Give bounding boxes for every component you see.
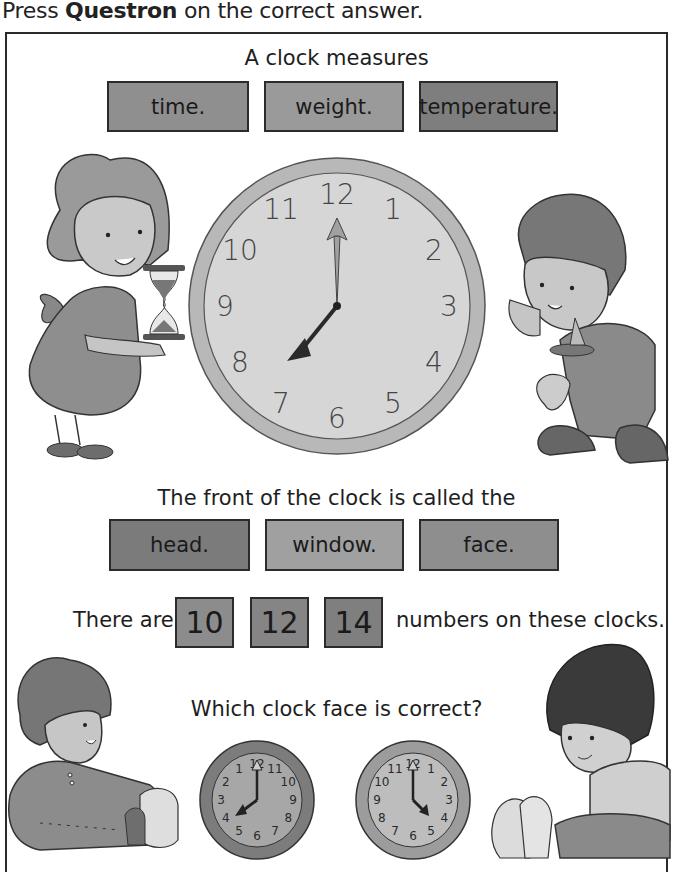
answer-label: 10 xyxy=(185,605,223,640)
answer-face-button[interactable]: face. xyxy=(419,519,559,571)
clock-numeral: 4 xyxy=(222,811,230,825)
clock-numeral: 6 xyxy=(409,829,417,843)
clock-numeral: 5 xyxy=(427,824,435,838)
instruction-prefix: Press xyxy=(2,0,65,23)
question-3-prompt-after: numbers on these clocks. xyxy=(396,608,665,632)
clock-numeral: 5 xyxy=(384,387,402,420)
answer-label: window. xyxy=(292,533,376,557)
clock-numeral: 11 xyxy=(263,193,299,226)
clock-numeral: 12 xyxy=(319,178,355,211)
girl-with-hourglass-illustration xyxy=(0,140,200,460)
clock-numeral: 1 xyxy=(384,193,402,226)
instruction-text: Press Questron on the correct answer. xyxy=(2,0,423,23)
clock-numeral: 2 xyxy=(440,775,448,789)
answer-window-button[interactable]: window. xyxy=(265,519,404,571)
clock-numeral: 10 xyxy=(374,775,389,789)
big-clock-illustration: 121234567891011 xyxy=(187,156,487,456)
clock-numeral: 8 xyxy=(231,346,249,379)
instruction-suffix: on the correct answer. xyxy=(177,0,423,23)
answer-14-button[interactable]: 14 xyxy=(324,597,383,648)
answer-12-button[interactable]: 12 xyxy=(250,597,309,648)
instruction-bold: Questron xyxy=(65,0,177,23)
boy-with-watch-illustration xyxy=(490,170,673,490)
clock-numeral: 2 xyxy=(425,234,443,267)
answer-label: temperature. xyxy=(419,95,558,119)
clock-numeral: 3 xyxy=(445,793,453,807)
clock-numeral: 3 xyxy=(440,290,458,323)
answer-label: time. xyxy=(151,95,205,119)
clock-numeral: 1 xyxy=(235,762,243,776)
answer-label: 14 xyxy=(334,605,372,640)
clock-numeral: 9 xyxy=(373,793,381,807)
clock-numeral: 6 xyxy=(328,402,346,435)
clock-numeral: 3 xyxy=(217,793,225,807)
answer-head-button[interactable]: head. xyxy=(109,519,250,571)
clock-numeral: 7 xyxy=(271,824,279,838)
clock-numeral: 1 xyxy=(427,762,435,776)
answer-10-button[interactable]: 10 xyxy=(175,597,234,648)
clock-numeral: 4 xyxy=(440,811,448,825)
sitting-boy-illustration xyxy=(480,640,673,858)
answer-label: head. xyxy=(150,533,209,557)
clock-numeral: 11 xyxy=(387,762,402,776)
clock-numeral: 4 xyxy=(425,346,443,379)
clock-numeral: 8 xyxy=(378,811,386,825)
clock-numeral: 9 xyxy=(289,793,297,807)
question-3-prompt-before: There are xyxy=(73,608,174,632)
sitting-girl-illustration xyxy=(0,645,200,858)
question-2-prompt: The front of the clock is called the xyxy=(0,486,673,510)
answer-weight-button[interactable]: weight. xyxy=(264,81,404,132)
clock-numeral: 8 xyxy=(284,811,292,825)
question-1-prompt: A clock measures xyxy=(0,46,673,70)
answer-label: face. xyxy=(463,533,514,557)
clock-numeral: 9 xyxy=(216,290,234,323)
clock-numeral: 10 xyxy=(281,775,296,789)
answer-label: weight. xyxy=(295,95,372,119)
clock-numeral: 7 xyxy=(272,387,290,420)
correct-clock-answer-button[interactable]: 121234567891011 xyxy=(355,742,471,862)
mirrored-clock-answer-button[interactable]: 121110987654321 xyxy=(199,742,315,862)
answer-label: 12 xyxy=(260,605,298,640)
answer-temperature-button[interactable]: temperature. xyxy=(419,81,558,132)
clock-numeral: 6 xyxy=(253,829,261,843)
clock-numeral: 11 xyxy=(267,762,282,776)
answer-time-button[interactable]: time. xyxy=(107,81,249,132)
clock-numeral: 7 xyxy=(391,824,399,838)
clock-numeral: 5 xyxy=(235,824,243,838)
clock-numeral: 2 xyxy=(222,775,230,789)
clock-numeral: 10 xyxy=(222,234,258,267)
